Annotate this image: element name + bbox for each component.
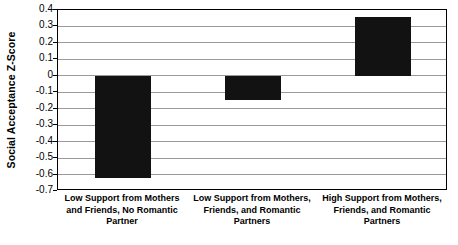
y-axis-tick-mark <box>53 174 57 175</box>
y-axis-tick-label: -0.1 <box>36 86 53 96</box>
y-axis-tick-label: 0.4 <box>39 4 53 14</box>
y-axis-tick-label: -0.7 <box>36 185 53 195</box>
bar <box>225 76 281 101</box>
y-axis-tick-label: 0.3 <box>39 20 53 30</box>
y-axis-tick-label: 0.1 <box>39 53 53 63</box>
y-axis-tick-labels: 0.40.30.20.10-0.1-0.2-0.3-0.4-0.5-0.6-0.… <box>24 0 53 200</box>
bar <box>355 17 411 76</box>
y-axis-tick-label: -0.6 <box>36 169 53 179</box>
x-axis-category-label: High Support from Mothers, Friends, and … <box>317 193 447 243</box>
bar-chart: Social Acceptance Z-Score 0.40.30.20.10-… <box>0 0 458 245</box>
y-axis-tick-label: -0.5 <box>36 152 53 162</box>
y-axis-tick-mark <box>53 9 57 10</box>
y-axis-tick-mark <box>53 91 57 92</box>
y-axis-tick-mark <box>53 157 57 158</box>
y-axis-tick-mark <box>53 190 57 191</box>
y-axis-tick-label: -0.3 <box>36 119 53 129</box>
y-axis-tick-mark <box>53 25 57 26</box>
x-axis-category-labels: Low Support from Mothers and Friends, No… <box>57 193 447 243</box>
y-axis-tick-mark <box>53 141 57 142</box>
y-axis-tick-label: -0.4 <box>36 136 53 146</box>
x-axis-category-label: Low Support from Mothers, Friends, and R… <box>187 193 317 243</box>
bar <box>95 76 151 178</box>
y-axis-tick-label: -0.2 <box>36 103 53 113</box>
plot-area <box>57 9 447 190</box>
y-axis-tick-mark <box>53 108 57 109</box>
y-axis-title: Social Acceptance Z-Score <box>0 0 22 200</box>
y-axis-tick-mark <box>53 75 57 76</box>
y-axis-tick-mark <box>53 58 57 59</box>
y-axis-tick-label: 0.2 <box>39 37 53 47</box>
y-axis-tick-mark <box>53 42 57 43</box>
x-axis-category-label: Low Support from Mothers and Friends, No… <box>57 193 187 243</box>
y-axis-title-text: Social Acceptance Z-Score <box>5 32 17 169</box>
y-axis-tick-mark <box>53 124 57 125</box>
